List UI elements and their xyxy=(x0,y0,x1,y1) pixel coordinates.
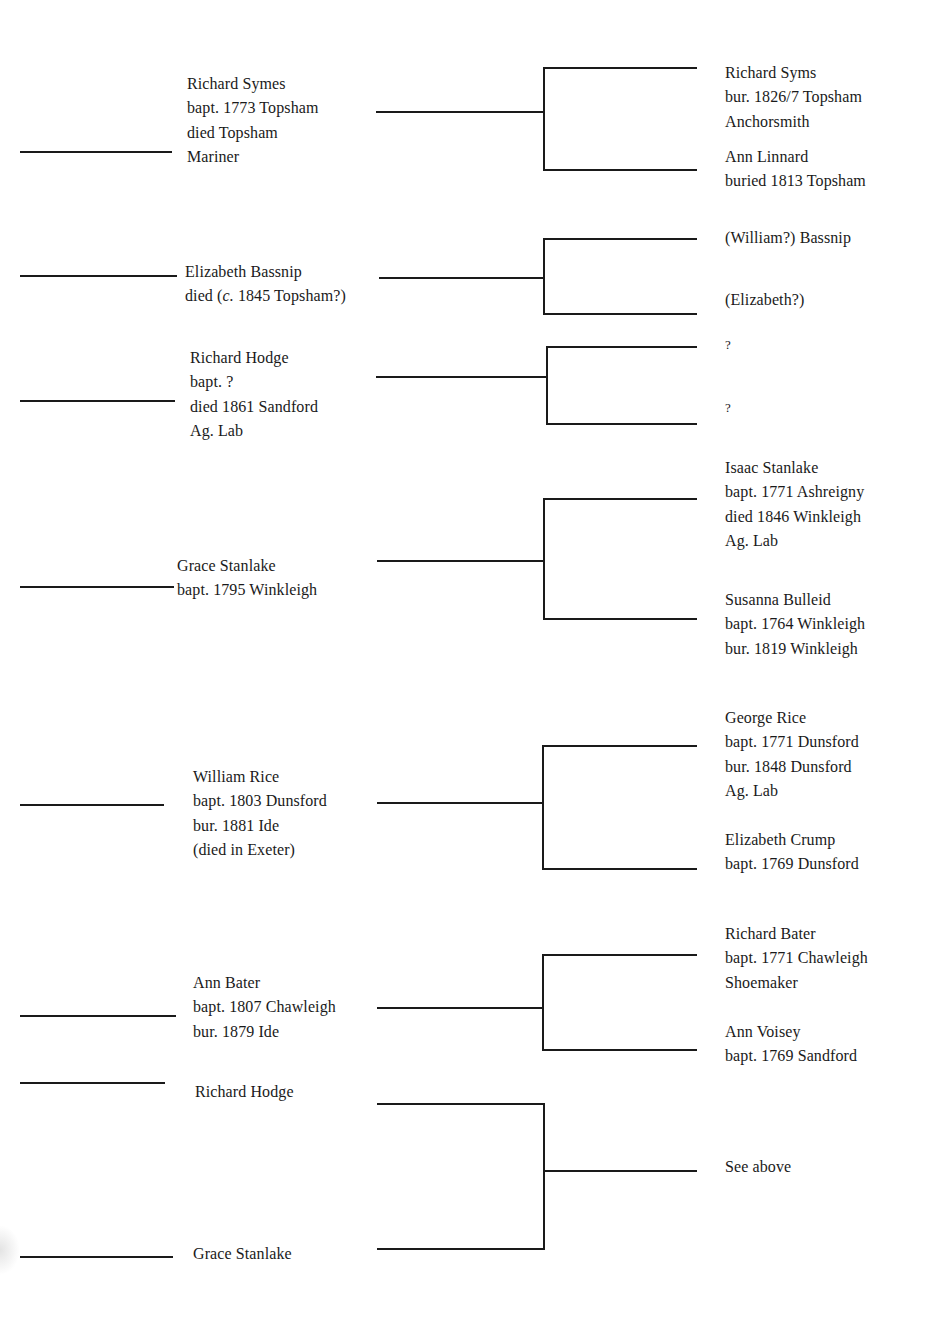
bracket-spine xyxy=(542,954,544,1050)
bracket-stem xyxy=(543,1170,697,1172)
person-name: George Rice xyxy=(725,706,859,730)
see-above-note: See above xyxy=(725,1155,791,1179)
person-baptism: bapt. 1771 Ashreigny xyxy=(725,480,864,504)
person-occupation: Ag. Lab xyxy=(725,529,864,553)
person-name: Ann Bater xyxy=(193,971,336,995)
bracket-arm-top xyxy=(542,745,697,747)
person-ann-voisey: Ann Voisey bapt. 1769 Sandford xyxy=(725,1020,857,1069)
person-baptism: bapt. 1771 Chawleigh xyxy=(725,946,868,970)
connector-left-grace-stanlake-repeat xyxy=(20,1256,173,1258)
person-name: (Elizabeth?) xyxy=(725,288,804,312)
person-death: died 1846 Winkleigh xyxy=(725,505,864,529)
person-name: Grace Stanlake xyxy=(193,1242,292,1266)
connector-left-elizabeth-bassnip xyxy=(20,275,177,277)
person-grace-stanlake-repeat: Grace Stanlake xyxy=(193,1242,292,1266)
bracket-arm-bottom xyxy=(543,313,697,315)
person-occupation: Mariner xyxy=(187,145,319,169)
person-occupation: Ag. Lab xyxy=(190,419,318,443)
person-isaac-stanlake: Isaac Stanlake bapt. 1771 Ashreigny died… xyxy=(725,456,864,553)
person-elizabeth-bassnip: Elizabeth Bassnip died (c. 1845 Topsham?… xyxy=(185,260,346,309)
person-name: Ann Voisey xyxy=(725,1020,857,1044)
person-burial: bur. 1826/7 Topsham xyxy=(725,85,862,109)
connector-left-richard-symes xyxy=(20,151,172,153)
person-unknown-father: ? xyxy=(725,333,731,357)
person-name: (William?) Bassnip xyxy=(725,226,851,250)
bracket-stem xyxy=(377,1007,542,1009)
person-richard-symes: Richard Symes bapt. 1773 Topsham died To… xyxy=(187,72,319,169)
person-name: Richard Symes xyxy=(187,72,319,96)
bracket-arm-bottom xyxy=(542,1049,697,1051)
bracket-arm-bottom xyxy=(546,423,697,425)
person-elizabeth-unknown: (Elizabeth?) xyxy=(725,288,804,312)
person-occupation: Anchorsmith xyxy=(725,110,862,134)
bracket-arm-bottom xyxy=(542,868,697,870)
bracket-spine xyxy=(546,346,548,424)
connector-left-william-rice xyxy=(20,804,164,806)
person-ann-linnard: Ann Linnard buried 1813 Topsham xyxy=(725,145,866,194)
bracket-arm-top xyxy=(543,67,697,69)
person-baptism: bapt. ? xyxy=(190,370,318,394)
bracket-arm-bottom xyxy=(543,169,697,171)
cross-reference: See above xyxy=(725,1155,791,1179)
bracket-stem xyxy=(377,560,543,562)
person-occupation: Shoemaker xyxy=(725,971,868,995)
person-name: Susanna Bulleid xyxy=(725,588,865,612)
person-name: ? xyxy=(725,333,731,357)
person-richard-bater: Richard Bater bapt. 1771 Chawleigh Shoem… xyxy=(725,922,868,995)
person-baptism: bapt. 1795 Winkleigh xyxy=(177,578,317,602)
person-death: died (c. 1845 Topsham?) xyxy=(185,284,346,308)
person-name: Elizabeth Bassnip xyxy=(185,260,346,284)
person-richard-syms: Richard Syms bur. 1826/7 Topsham Anchors… xyxy=(725,61,862,134)
person-note: (died in Exeter) xyxy=(193,838,327,862)
person-name: Elizabeth Crump xyxy=(725,828,859,852)
person-baptism: bapt. 1769 Dunsford xyxy=(725,852,859,876)
bracket-arm-top xyxy=(543,498,697,500)
person-death: died Topsham xyxy=(187,121,319,145)
person-ann-bater: Ann Bater bapt. 1807 Chawleigh bur. 1879… xyxy=(193,971,336,1044)
circa-abbrev: c. xyxy=(222,287,233,304)
person-name: Richard Syms xyxy=(725,61,862,85)
scan-smudge xyxy=(0,1225,20,1275)
bracket-stem xyxy=(377,802,542,804)
person-elizabeth-crump: Elizabeth Crump bapt. 1769 Dunsford xyxy=(725,828,859,877)
person-baptism: bapt. 1773 Topsham xyxy=(187,96,319,120)
person-name: Richard Bater xyxy=(725,922,868,946)
bracket-spine xyxy=(543,67,545,170)
person-unknown-mother: ? xyxy=(725,396,731,420)
connector-left-ann-bater xyxy=(20,1015,176,1017)
bracket-stem xyxy=(376,111,543,113)
bracket-spine xyxy=(543,1103,545,1250)
person-burial: buried 1813 Topsham xyxy=(725,169,866,193)
person-richard-hodge-repeat: Richard Hodge xyxy=(195,1080,294,1104)
person-george-rice: George Rice bapt. 1771 Dunsford bur. 184… xyxy=(725,706,859,803)
person-baptism: bapt. 1771 Dunsford xyxy=(725,730,859,754)
bracket-spine xyxy=(543,238,545,314)
person-name: Grace Stanlake xyxy=(177,554,317,578)
person-william-rice: William Rice bapt. 1803 Dunsford bur. 18… xyxy=(193,765,327,862)
person-name: Richard Hodge xyxy=(195,1080,294,1104)
person-occupation: Ag. Lab xyxy=(725,779,859,803)
person-name: ? xyxy=(725,396,731,420)
person-grace-stanlake: Grace Stanlake bapt. 1795 Winkleigh xyxy=(177,554,317,603)
person-baptism: bapt. 1764 Winkleigh xyxy=(725,612,865,636)
person-baptism: bapt. 1807 Chawleigh xyxy=(193,995,336,1019)
bracket-arm-top xyxy=(543,238,697,240)
bracket-stem xyxy=(379,277,543,279)
person-burial: bur. 1848 Dunsford xyxy=(725,755,859,779)
person-name: Isaac Stanlake xyxy=(725,456,864,480)
person-name: Richard Hodge xyxy=(190,346,318,370)
bracket-arm-top xyxy=(542,954,697,956)
person-name: William Rice xyxy=(193,765,327,789)
bracket-arm-bottom xyxy=(543,618,697,620)
bracket-spine xyxy=(543,498,545,619)
bracket-spine xyxy=(542,745,544,869)
person-william-bassnip: (William?) Bassnip xyxy=(725,226,851,250)
bracket-arm-top xyxy=(377,1103,543,1105)
connector-left-grace-stanlake xyxy=(20,586,174,588)
person-death: died 1861 Sandford xyxy=(190,395,318,419)
person-richard-hodge: Richard Hodge bapt. ? died 1861 Sandford… xyxy=(190,346,318,443)
connector-left-richard-hodge-repeat xyxy=(20,1082,165,1084)
person-burial: bur. 1881 Ide xyxy=(193,814,327,838)
person-baptism: bapt. 1769 Sandford xyxy=(725,1044,857,1068)
person-name: Ann Linnard xyxy=(725,145,866,169)
